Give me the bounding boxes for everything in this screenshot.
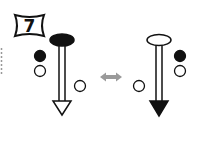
filled-circle-icon	[35, 51, 46, 62]
filled-triangle-tip-icon	[150, 101, 168, 116]
hollow-circle-icon	[175, 66, 186, 77]
filled-ellipse-head-icon	[50, 34, 74, 46]
hollow-circle-icon	[75, 81, 86, 92]
swap-double-arrow-icon	[100, 73, 122, 82]
hollow-triangle-tip-icon	[53, 101, 71, 115]
filled-circle-icon	[175, 51, 186, 62]
figure-number-label: 7	[15, 15, 44, 36]
hollow-circle-icon	[134, 81, 145, 92]
right-arrow-icon	[147, 35, 171, 117]
left-arrow-icon	[50, 34, 74, 115]
hollow-ellipse-head-icon	[147, 35, 171, 46]
hollow-circle-icon	[35, 66, 46, 77]
